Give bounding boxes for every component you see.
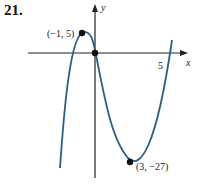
origin-point	[92, 50, 98, 56]
x-axis-label: x	[185, 57, 191, 68]
cubic-graph: (−1, 5) (3, −27) x y 5	[0, 0, 202, 185]
local-min-point	[127, 159, 133, 165]
y-axis-arrow-icon	[92, 4, 98, 12]
max-point-label: (−1, 5)	[47, 28, 74, 40]
x-tick-5: 5	[158, 60, 163, 71]
x-axis-arrow-icon	[180, 50, 188, 56]
y-axis-label: y	[100, 2, 106, 13]
min-point-label: (3, −27)	[136, 161, 168, 173]
local-max-point	[79, 30, 85, 36]
